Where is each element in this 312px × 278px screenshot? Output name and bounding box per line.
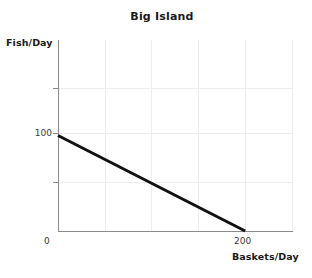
ppf-line bbox=[58, 136, 245, 232]
chart-root: Big Island Fish/Day Baskets/Day 100 0 20… bbox=[0, 0, 312, 278]
data-series-layer bbox=[0, 0, 312, 278]
